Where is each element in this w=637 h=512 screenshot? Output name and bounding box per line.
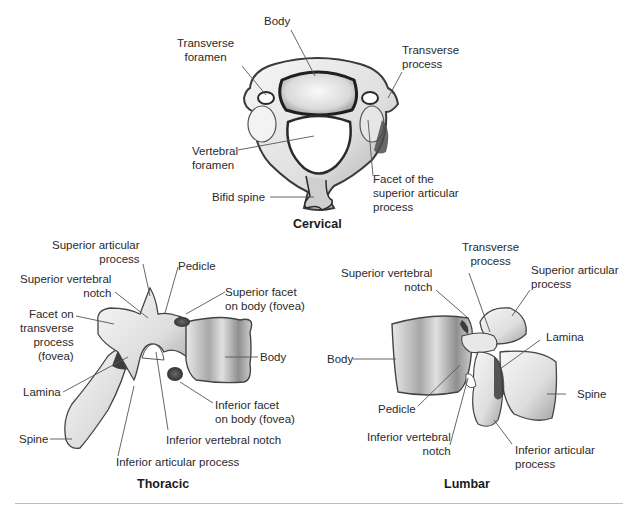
label-lumbar-superior-vertebral-notch: Superior vertebral notch [341, 266, 432, 294]
label-thoracic-inferior-vertebral-notch: Inferior vertebral notch [166, 433, 281, 447]
label-lumbar-lamina: Lamina [546, 330, 584, 344]
label-thoracic-superior-facet-body: Superior facet on body (fovea) [225, 285, 305, 313]
label-thoracic-spine: Spine [19, 432, 48, 446]
label-lumbar-body: Body [327, 352, 353, 366]
label-thoracic-superior-vertebral-notch: Superior vertebral notch [20, 272, 111, 300]
label-thoracic-pedicle: Pedicle [178, 259, 216, 273]
caption-cervical: Cervical [293, 217, 342, 231]
label-cervical-transverse-process: Transverse process [402, 43, 459, 71]
label-cervical-bifid-spine: Bifid spine [212, 190, 265, 204]
label-lumbar-superior-articular-process: Superior articular process [531, 263, 619, 291]
label-cervical-transverse-foramen: Transverse foramen [177, 36, 234, 64]
label-thoracic-superior-articular-process: Superior articular process [52, 238, 140, 266]
label-lumbar-spine: Spine [577, 387, 606, 401]
label-lumbar-pedicle: Pedicle [378, 402, 416, 416]
label-thoracic-facet-transverse-process: Facet on transverse process (fovea) [20, 307, 74, 363]
label-thoracic-body: Body [260, 350, 286, 364]
caption-thoracic: Thoracic [137, 477, 189, 491]
label-cervical-body: Body [264, 14, 290, 28]
label-thoracic-inferior-articular-process: Inferior articular process [116, 455, 239, 469]
label-lumbar-inferior-vertebral-notch: Inferior vertebral notch [367, 430, 451, 458]
label-cervical-facet-superior-articular: Facet of the superior articular process [373, 172, 459, 214]
label-lumbar-transverse-process: Transverse process [462, 240, 519, 268]
lumbar-vertebra-drawing [392, 308, 557, 426]
label-cervical-vertebral-foramen: Vertebral foramen [192, 144, 238, 172]
label-lumbar-inferior-articular-process: Inferior articular process [515, 443, 595, 471]
bottom-divider [15, 503, 623, 504]
label-thoracic-inferior-facet-body: Inferior facet on body (fovea) [215, 398, 295, 426]
caption-lumbar: Lumbar [444, 477, 490, 491]
label-thoracic-lamina: Lamina [23, 385, 61, 399]
